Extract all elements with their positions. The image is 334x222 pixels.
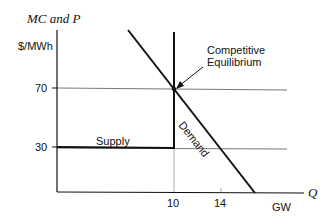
equilibrium-label: Competitive Equilibrium bbox=[207, 44, 265, 68]
y-unit-label: $/MWh bbox=[18, 40, 53, 52]
x-tick-label-10: 10 bbox=[167, 197, 179, 209]
arrow-head-icon bbox=[176, 81, 184, 89]
x-tick-label-14: 14 bbox=[214, 197, 226, 209]
supply-curve bbox=[57, 32, 174, 148]
supply-label: Supply bbox=[96, 135, 130, 147]
equilibrium-arrow bbox=[179, 67, 203, 86]
x-axis-symbol: Q bbox=[308, 187, 317, 199]
supply-demand-diagram bbox=[0, 0, 334, 222]
y-tick-label-70: 70 bbox=[35, 82, 47, 94]
x-unit-label: GW bbox=[272, 201, 291, 213]
equilibrium-label-line2: Equilibrium bbox=[207, 56, 265, 68]
equilibrium-label-line1: Competitive bbox=[207, 44, 265, 56]
x-axis bbox=[57, 192, 304, 193]
y-tick-label-30: 30 bbox=[35, 141, 47, 153]
diagram-title: MC and P bbox=[27, 13, 80, 25]
equilibrium-point bbox=[172, 87, 176, 91]
